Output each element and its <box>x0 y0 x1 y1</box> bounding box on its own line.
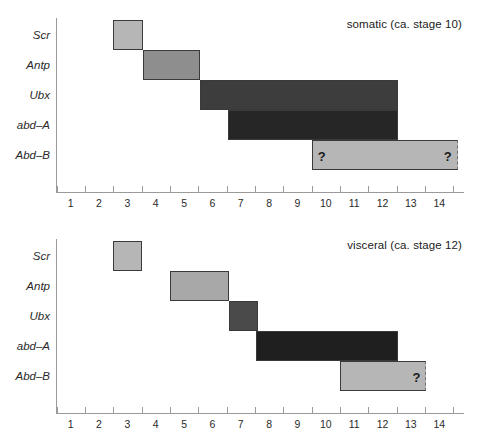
x-axis-tick <box>170 186 171 192</box>
x-axis-tick <box>340 186 341 192</box>
x-axis-tick <box>312 407 313 413</box>
x-axis-tick <box>198 186 199 192</box>
x-axis-line <box>56 192 464 193</box>
x-axis-tick <box>425 186 426 192</box>
x-axis-tick-label: 14 <box>433 418 445 430</box>
x-axis-tick-label: 1 <box>68 418 74 430</box>
x-axis-tick-label: 5 <box>181 418 187 430</box>
uncertainty-question-mark: ? <box>318 150 326 163</box>
gene-label: Antp <box>26 59 50 71</box>
x-axis-tick-label: 4 <box>153 418 159 430</box>
x-axis-tick <box>113 407 114 413</box>
x-axis-tick <box>142 407 143 413</box>
x-axis-tick <box>397 186 398 192</box>
x-axis-tick <box>85 407 86 413</box>
x-axis-tick-label: 8 <box>266 197 272 209</box>
expression-bar-scr <box>113 20 143 50</box>
x-axis-tick <box>227 186 228 192</box>
gene-label: Antp <box>26 280 50 292</box>
x-axis-tick-label: 14 <box>433 197 445 209</box>
x-axis-tick <box>312 186 313 192</box>
x-axis-tick-label: 2 <box>96 197 102 209</box>
x-axis-tick-label: 1 <box>68 197 74 209</box>
x-axis-tick <box>113 186 114 192</box>
uncertainty-question-mark: ? <box>413 371 421 384</box>
x-axis-tick-label: 2 <box>96 418 102 430</box>
x-axis-tick <box>453 186 454 192</box>
x-axis-tick-label: 11 <box>349 418 360 430</box>
x-axis-tick-label: 3 <box>124 197 130 209</box>
figure-hox-expression: somatic (ca. stage 10) 12345678910111213… <box>0 0 480 442</box>
gene-label: Abd–B <box>15 370 50 382</box>
x-axis-tick <box>170 407 171 413</box>
x-axis-tick-label: 4 <box>153 197 159 209</box>
x-axis-tick-label: 8 <box>266 418 272 430</box>
x-axis-tick-label: 13 <box>405 197 417 209</box>
x-axis-tick-label: 13 <box>405 418 417 430</box>
y-axis-line <box>56 239 57 413</box>
x-axis-tick-label: 9 <box>295 197 301 209</box>
x-axis-tick <box>198 407 199 413</box>
expression-bar-antp <box>170 271 230 301</box>
x-axis-tick-label: 10 <box>320 418 332 430</box>
gene-label: Scr <box>33 29 50 41</box>
x-axis-tick-label: 6 <box>210 418 216 430</box>
x-axis-tick <box>255 407 256 413</box>
x-axis-tick <box>368 186 369 192</box>
plot-area-somatic: 1234567891011121314ScrAntpUbxabd–AAbd–B?… <box>0 0 480 221</box>
expression-bar-ubx <box>229 301 257 331</box>
x-axis-tick <box>283 186 284 192</box>
expression-bar-antp <box>143 50 200 80</box>
plot-area-visceral: 1234567891011121314ScrAntpUbxabd–AAbd–B? <box>0 221 480 442</box>
x-axis-tick <box>283 407 284 413</box>
x-axis-tick-label: 7 <box>238 197 244 209</box>
x-axis-tick <box>340 407 341 413</box>
x-axis-tick <box>227 407 228 413</box>
expression-bar-abd-b: ? <box>340 361 426 391</box>
x-axis-tick-label: 9 <box>295 418 301 430</box>
panel-visceral: visceral (ca. stage 12) 1234567891011121… <box>0 221 480 442</box>
x-axis-tick <box>255 186 256 192</box>
gene-label: Ubx <box>30 89 50 101</box>
x-axis-tick-label: 5 <box>181 197 187 209</box>
expression-bar-ubx <box>200 80 398 110</box>
x-axis-tick <box>453 407 454 413</box>
expression-bar-scr <box>113 241 141 271</box>
expression-bar-abd-b: ?? <box>312 140 458 170</box>
y-axis-line <box>56 18 57 192</box>
x-axis-tick <box>57 186 58 192</box>
x-axis-tick-label: 11 <box>349 197 360 209</box>
expression-bar-abd-a <box>256 331 398 361</box>
x-axis-tick-label: 12 <box>377 197 389 209</box>
x-axis-line <box>56 413 464 414</box>
x-axis-tick <box>142 186 143 192</box>
x-axis-tick <box>57 407 58 413</box>
x-axis-tick <box>397 407 398 413</box>
x-axis-tick <box>368 407 369 413</box>
x-axis-tick-label: 10 <box>320 197 332 209</box>
gene-label: Scr <box>33 250 50 262</box>
gene-label: abd–A <box>17 340 50 352</box>
x-axis-tick-label: 6 <box>210 197 216 209</box>
uncertainty-question-mark: ? <box>444 150 452 163</box>
gene-label: Ubx <box>30 310 50 322</box>
gene-label: Abd–B <box>15 149 50 161</box>
panel-somatic: somatic (ca. stage 10) 12345678910111213… <box>0 0 480 221</box>
x-axis-tick-label: 7 <box>238 418 244 430</box>
expression-bar-abd-a <box>228 110 398 140</box>
x-axis-tick <box>425 407 426 413</box>
gene-label: abd–A <box>17 119 50 131</box>
x-axis-tick-label: 12 <box>377 418 389 430</box>
x-axis-tick <box>85 186 86 192</box>
x-axis-tick-label: 3 <box>124 418 130 430</box>
